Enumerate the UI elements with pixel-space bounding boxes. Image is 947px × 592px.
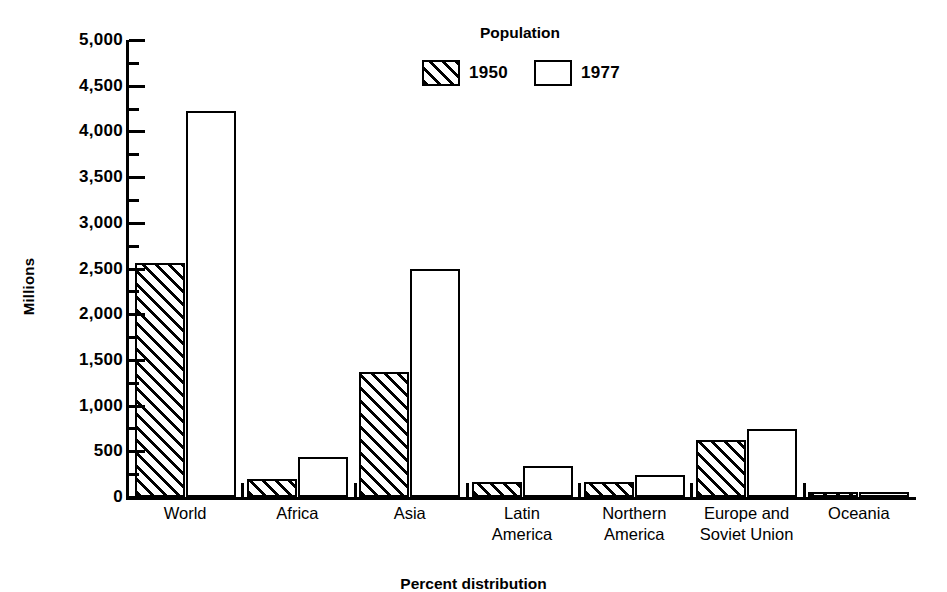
x-tick-label: Asia xyxy=(394,503,426,524)
bar-1950-2 xyxy=(247,479,297,497)
bar-1977-4 xyxy=(523,466,573,497)
legend-label-1950: 1950 xyxy=(469,63,508,83)
y-tick-mark xyxy=(129,39,145,42)
x-axis-separator xyxy=(578,483,581,497)
x-axis-separator xyxy=(466,483,469,497)
y-tick-mark-minor xyxy=(129,153,139,156)
bar-1950-1 xyxy=(135,263,185,497)
y-tick-mark-minor xyxy=(129,62,139,65)
bar-1977-2 xyxy=(298,457,348,497)
x-tick-label: Africa xyxy=(276,503,318,524)
y-tick-mark-minor xyxy=(129,108,139,111)
bar-1977-1 xyxy=(186,111,236,497)
x-axis-tick-labels: WorldAfricaAsiaLatin AmericaNorthern Ame… xyxy=(0,503,947,563)
bar-1950-6 xyxy=(696,440,746,497)
x-axis-separator xyxy=(690,483,693,497)
legend: Population 19501977 xyxy=(448,24,646,86)
x-tick-label: Latin America xyxy=(492,503,553,545)
x-tick-label: World xyxy=(164,503,207,524)
y-tick-mark xyxy=(129,496,145,499)
x-axis-separator xyxy=(241,483,244,497)
y-tick-mark-minor xyxy=(129,336,139,339)
x-axis-line xyxy=(126,497,916,500)
y-tick-mark xyxy=(129,130,145,133)
y-tick-mark xyxy=(129,450,145,453)
legend-swatch-1950 xyxy=(422,60,460,86)
x-tick-label: Oceania xyxy=(828,503,889,524)
y-tick-mark xyxy=(129,85,145,88)
y-tick-mark xyxy=(129,222,145,225)
y-tick-mark-minor xyxy=(129,427,139,430)
y-tick-mark xyxy=(129,359,145,362)
legend-title: Population xyxy=(440,24,600,42)
bar-chart: Millions 05001,0001,5002,0002,5003,0003,… xyxy=(0,0,947,592)
y-tick-mark xyxy=(129,405,145,408)
bar-1977-6 xyxy=(747,429,797,497)
y-tick-mark-minor xyxy=(129,290,139,293)
y-tick-mark-minor xyxy=(129,199,139,202)
y-tick-mark-minor xyxy=(129,382,139,385)
y-tick-mark xyxy=(129,313,145,316)
legend-label-1977: 1977 xyxy=(581,63,620,83)
legend-swatch-1977 xyxy=(534,60,572,86)
legend-items: 19501977 xyxy=(422,60,646,86)
bar-1977-5 xyxy=(635,475,685,497)
bar-1950-3 xyxy=(359,372,409,497)
y-tick-mark-minor xyxy=(129,473,139,476)
y-tick-mark xyxy=(129,176,145,179)
y-tick-mark-minor xyxy=(129,245,139,248)
y-tick-mark xyxy=(129,268,145,271)
bar-1950-4 xyxy=(472,482,522,497)
x-tick-label: Europe and Soviet Union xyxy=(700,503,794,545)
bar-1950-5 xyxy=(584,482,634,497)
x-axis-separator xyxy=(803,483,806,497)
x-axis-separator xyxy=(354,483,357,497)
x-tick-label: Northern America xyxy=(602,503,666,545)
bar-1977-3 xyxy=(410,269,460,497)
bottom-caption: Percent distribution xyxy=(0,575,947,592)
